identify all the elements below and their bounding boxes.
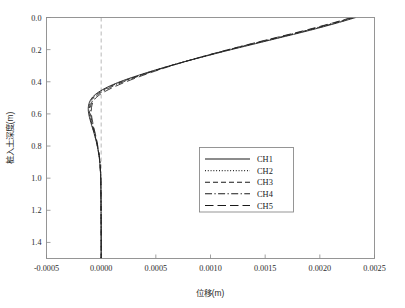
chart-container: -0.00050.00000.00050.00100.00150.00200.0… [0,0,405,308]
legend-label-ch5: CH5 [257,202,273,211]
x-tick-label: 0.0000 [90,264,113,273]
x-axis-title: 位移(m) [196,288,225,298]
y-tick-label: 0.6 [31,110,41,119]
y-tick-label: 1.4 [31,238,41,247]
y-tick-label: 0.0 [31,14,41,23]
chart-legend: CH1CH2CH3CH4CH5 [200,148,294,213]
y-axis-title: 桩入土深度(m) [5,112,15,165]
displacement-depth-chart: -0.00050.00000.00050.00100.00150.00200.0… [0,0,405,308]
legend-label-ch1: CH1 [257,155,273,164]
x-tick-label: 0.0010 [199,264,222,273]
x-tick-label: 0.0020 [309,264,332,273]
y-tick-label: 0.8 [31,142,41,151]
legend-label-ch2: CH2 [257,167,273,176]
legend-label-ch3: CH3 [257,178,273,187]
y-tick-label: 1.0 [31,174,41,183]
y-tick-label: 0.4 [31,78,41,87]
legend-label-ch4: CH4 [257,190,274,199]
legend-box [200,148,294,213]
x-tick-label: 0.0005 [145,264,168,273]
x-tick-label: 0.0025 [363,264,386,273]
y-tick-label: 1.2 [31,206,41,215]
x-tick-label: -0.0005 [34,264,59,273]
y-tick-label: 0.2 [31,46,41,55]
x-tick-label: 0.0015 [254,264,277,273]
